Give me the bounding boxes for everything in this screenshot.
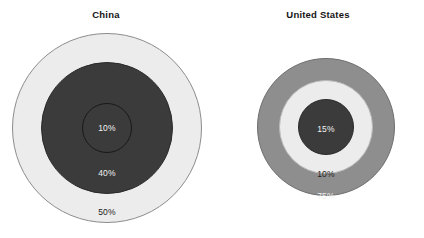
concentric-circle-chart-figure: China 50% 40% 10% United States 75% 10%: [0, 0, 424, 238]
label-china-middle-40: 40%: [98, 168, 116, 178]
label-us-outer-75: 75%: [317, 191, 335, 201]
chart-panel-china: China 50% 40% 10%: [0, 0, 212, 238]
label-us-middle-10: 10%: [317, 169, 335, 179]
label-us-inner-15: 15%: [317, 124, 335, 134]
ring-group-china: 50% 40% 10%: [0, 0, 212, 238]
ring-group-united-states: 75% 10% 15%: [212, 0, 424, 238]
label-china-inner-10: 10%: [98, 123, 116, 133]
label-china-outer-50: 50%: [98, 207, 116, 217]
chart-panel-united-states: United States 75% 10% 15%: [212, 0, 424, 238]
